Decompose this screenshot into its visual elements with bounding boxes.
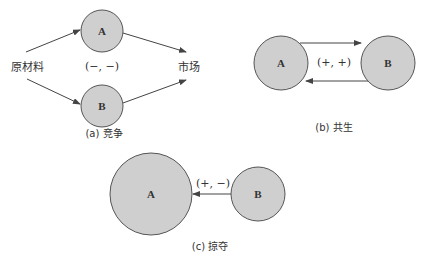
interaction-label: (−, −) — [85, 60, 119, 73]
node-a-label: A — [98, 25, 106, 37]
node-b-label: B — [254, 188, 262, 200]
ecological-relations-diagram: A B 原材料 市场 (−, −) (a) 竞争 A B (+, +) (b) … — [0, 0, 421, 260]
node-a-label: A — [147, 188, 155, 200]
node-a-label: A — [277, 57, 285, 69]
raw-material-label: 原材料 — [11, 60, 44, 74]
arrow-a-to-market — [123, 33, 186, 52]
arrow-raw-to-b — [27, 79, 80, 104]
arrow-raw-to-a — [26, 30, 80, 52]
market-label: 市场 — [178, 60, 200, 74]
interaction-label: (+, −) — [196, 177, 230, 190]
caption-a: (a) 竞争 — [85, 127, 122, 139]
node-b-label: B — [98, 100, 106, 112]
panel-a-competition: A B 原材料 市场 (−, −) (a) 竞争 — [11, 10, 201, 139]
interaction-label: (+, +) — [317, 56, 351, 69]
panel-b-mutualism: A B (+, +) (b) 共生 — [254, 36, 415, 133]
caption-b: (b) 共生 — [315, 121, 352, 133]
panel-c-predation: A B (+, −) (c) 掠夺 — [110, 153, 285, 252]
caption-c: (c) 掠夺 — [192, 240, 228, 252]
node-b-label: B — [384, 57, 392, 69]
arrow-b-to-market — [123, 80, 186, 103]
